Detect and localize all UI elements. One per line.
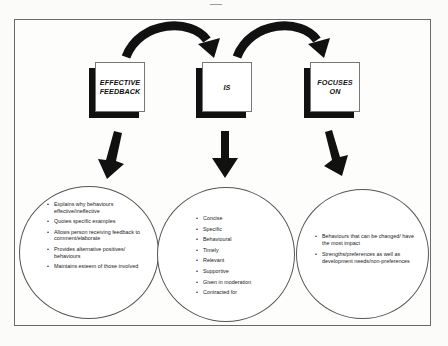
curved-arrow-icon: [126, 26, 220, 58]
curved-arrow-icon: [237, 26, 330, 58]
box-face: FOCUSES ON: [310, 62, 360, 112]
bullet-list: Concise Specific Behavioural Timely Rele…: [196, 213, 286, 298]
list-item: Explains why behaviours effective/ineffe…: [47, 201, 147, 214]
box-label-line: IS: [224, 83, 231, 92]
down-arrow-icon: [98, 131, 124, 179]
box-label: FOCUSES ON: [317, 78, 352, 96]
box-label: EFFECTIVE FEEDBACK: [100, 78, 141, 96]
list-item: Quotes specific examples: [47, 218, 147, 225]
bullet-list: Explains why behaviours effective/ineffe…: [47, 201, 147, 270]
list-item: Strengths/preferences as well as develop…: [315, 251, 415, 264]
box-label: IS: [224, 83, 231, 92]
box-label-line: ON: [317, 87, 352, 96]
box-face: IS: [202, 62, 252, 112]
box-face: EFFECTIVE FEEDBACK: [95, 62, 145, 112]
box-label-line: FOCUSES: [317, 78, 352, 87]
box-label-line: FEEDBACK: [100, 87, 141, 96]
list-item: Maintains esteem of those involved: [47, 263, 147, 270]
circle-effective-feedback-details: Explains why behaviours effective/ineffe…: [19, 186, 159, 319]
list-item: Timely: [196, 245, 286, 256]
list-item: Supportive: [196, 266, 286, 277]
list-item: Relevant: [196, 255, 286, 266]
list-item: Concise: [196, 213, 286, 224]
box-label-line: EFFECTIVE: [100, 78, 141, 87]
box-effective-feedback: EFFECTIVE FEEDBACK: [95, 62, 151, 118]
box-focuses-on: FOCUSES ON: [310, 62, 366, 118]
list-item: Behavioural: [196, 234, 286, 245]
bullet-list: Behaviours that can be changed/ have the…: [315, 233, 415, 264]
list-item: Provides alternative positives/ behaviou…: [47, 246, 147, 259]
circle-focuses-on-details: Behaviours that can be changed/ have the…: [296, 189, 429, 319]
list-item: Behaviours that can be changed/ have the…: [315, 233, 415, 246]
list-item: Specific: [196, 224, 286, 235]
down-arrow-icon: [324, 130, 348, 176]
list-item: Contracted for: [196, 287, 286, 298]
list-item: Given in moderation: [196, 277, 286, 288]
down-arrow-icon: [212, 131, 238, 178]
list-item: Allows person receiving feedback to comm…: [47, 229, 147, 242]
circle-is-details: Concise Specific Behavioural Timely Rele…: [157, 187, 295, 322]
box-is: IS: [202, 62, 258, 118]
